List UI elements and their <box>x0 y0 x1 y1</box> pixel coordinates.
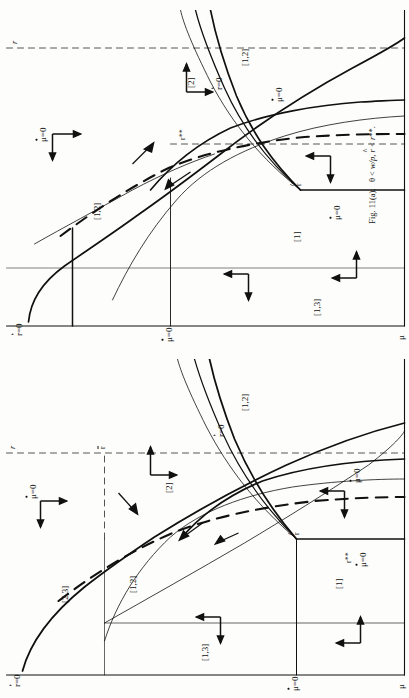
tick-label-r-hat: r <box>292 532 300 535</box>
axis-label-r: r <box>8 445 16 448</box>
tick-label-r-bar: r <box>98 446 106 449</box>
figure-10c-canvas: r=0 μ=0 [1,3] [2,3] [1,2] [1] [2] [1,2] … <box>0 359 409 689</box>
axis-label-mu: μ <box>396 684 405 689</box>
figure-11a-canvas: r=0 μ=0 [1,3] [1] [1,2] [2] [1,2] r r** … <box>0 10 409 340</box>
figure-11a-caption-number: Fig. 11(a). <box>367 188 377 223</box>
figure-10c: r=0 μ=0 [1,3] [2,3] [1,2] [1] [2] [1,2] … <box>0 349 409 698</box>
direction-arrow-cross-3 <box>49 131 80 160</box>
label-rdot0-top: r=0 <box>14 323 23 336</box>
label-mudot0-mid: μ=0 <box>332 205 341 219</box>
curve-saddle-dashed <box>58 497 404 601</box>
direction-arrow-into-saddle-a <box>132 143 153 164</box>
tick-label-r-star2: r** <box>178 129 186 140</box>
region-label-1: [1] <box>292 231 301 242</box>
label-rdot0-lower: r=0 <box>214 77 223 90</box>
direction-arrow-cross-2 <box>332 252 359 281</box>
figure-10c-plot-stage: r=0 μ=0 [1,3] [2,3] [1,2] [1] [2] [1,2] … <box>0 359 409 689</box>
tick-label-r-star2: r** <box>344 552 352 563</box>
direction-arrow-cross-1 <box>224 271 251 300</box>
curve-lower-a <box>209 359 296 539</box>
label-mudot0-lower: μ=0 <box>352 468 361 482</box>
figure-11a-caption: Fig. 11(a). θ < w/p, r < r**. <box>367 126 377 224</box>
direction-arrows-group <box>49 64 359 300</box>
label-mudot0-left: μ=0 <box>290 676 299 690</box>
label-mudot0-left: μ=0 <box>164 327 173 341</box>
region-label-13: [1,3] <box>200 643 209 660</box>
region-label-23: [2,3] <box>60 585 69 602</box>
label-rdot0-lower: r=0 <box>216 424 225 437</box>
direction-arrow-cross-1 <box>196 614 223 643</box>
direction-arrow-onto-dashed <box>118 493 137 514</box>
direction-arrows-group <box>37 447 363 646</box>
curve-rdot0-upper <box>22 423 404 671</box>
region-label-12-lower: [1,2] <box>240 393 249 410</box>
figure-11a-caption-condition: θ < w/p, r < r**. <box>367 126 377 182</box>
direction-arrow-cross-4 <box>147 447 176 478</box>
region-label-2: [2] <box>164 482 173 493</box>
direction-arrow-into-saddle-b <box>215 533 238 544</box>
region-label-12-upper: [1,2] <box>128 575 137 592</box>
direction-arrow-into-saddle-a <box>179 523 202 540</box>
figure-10c-svg <box>0 359 409 689</box>
tick-label-r-hat: r <box>294 183 302 186</box>
label-mudot0-upper: μ=0 <box>38 127 47 141</box>
label-mudot0-upper: μ=0 <box>28 484 37 498</box>
label-mudot0-lower: μ=0 <box>274 87 283 101</box>
axis-label-mu: μ <box>396 335 405 340</box>
region-label-12-lower: [1,2] <box>240 48 249 65</box>
curve-mudot0-upperleft <box>34 154 214 244</box>
direction-arrow-cross-3 <box>37 498 66 527</box>
curve-saddle-dashed <box>60 134 404 236</box>
direction-arrow-cross-2 <box>336 617 363 646</box>
figure-11a-svg <box>0 10 409 340</box>
region-label-13: [1,3] <box>312 298 321 315</box>
axis-label-r: r <box>10 40 18 43</box>
region-label-2: [2] <box>186 77 195 88</box>
scanned-page: r=0 μ=0 [1,3] [1] [1,2] [2] [1,2] r r** … <box>0 0 409 698</box>
curve-mudot0-thick <box>180 459 404 539</box>
curve-guide-thin-left <box>104 431 404 623</box>
region-label-12-upper: [1,2] <box>92 202 101 219</box>
figure-11a: r=0 μ=0 [1,3] [1] [1,2] [2] [1,2] r r** … <box>0 0 409 349</box>
curve-lower-c <box>177 359 296 539</box>
label-rdot0-top: r=0 <box>12 674 21 687</box>
label-mudot0-mid: μ=0 <box>358 552 367 566</box>
direction-arrow-cross-5 <box>320 488 347 517</box>
figure-11a-plot-stage: r=0 μ=0 [1,3] [1] [1,2] [2] [1,2] r r** … <box>0 10 409 340</box>
direction-arrow-cross-5 <box>306 153 333 182</box>
region-label-1: [1] <box>334 578 343 589</box>
